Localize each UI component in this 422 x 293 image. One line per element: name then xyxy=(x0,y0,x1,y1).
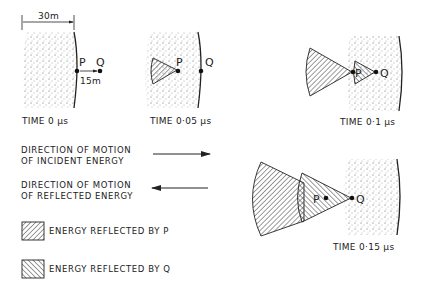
reflected-wedge-p xyxy=(306,48,352,96)
label-p: P xyxy=(313,193,320,206)
label-p: P xyxy=(355,67,362,80)
swatch-p-icon xyxy=(22,222,44,240)
panel-time-005: P Q TIME 0·05 μs xyxy=(146,32,214,126)
legend-incident-line1: DIRECTION OF MOTION xyxy=(21,145,131,156)
reflected-wedge-p xyxy=(253,162,305,236)
time-label: TIME 0 μs xyxy=(21,116,68,126)
label-q: Q xyxy=(205,56,214,69)
time-label: TIME 0·05 μs xyxy=(149,116,211,126)
legend-energy-q: ENERGY REFLECTED BY Q xyxy=(49,264,171,275)
panel-time-015: P Q TIME 0·15 μs xyxy=(253,159,401,252)
label-q: Q xyxy=(356,193,365,206)
legend-reflected-line2: OF REFLECTED ENERGY xyxy=(21,191,133,202)
spacing-label: 15m xyxy=(80,76,101,86)
legend-reflected: DIRECTION OF MOTION OF REFLECTED ENERGY xyxy=(21,180,133,202)
legend-reflected-line1: DIRECTION OF MOTION xyxy=(21,180,133,191)
label-q: Q xyxy=(96,56,105,69)
point-p xyxy=(75,69,80,74)
legend-incident-line2: OF INCIDENT ENERGY xyxy=(21,156,131,167)
panel-time-0: 30m P Q 15m TIME 0 μs xyxy=(21,11,105,126)
legend-incident: DIRECTION OF MOTION OF INCIDENT ENERGY xyxy=(21,145,131,167)
dimension-label: 30m xyxy=(38,11,59,21)
layer-body xyxy=(23,32,77,108)
label-p: P xyxy=(176,56,183,69)
panel-time-01: P Q TIME 0·1 μs xyxy=(306,36,402,127)
point-q xyxy=(98,69,103,74)
legend-energy-p: ENERGY REFLECTED BY P xyxy=(49,226,169,237)
time-label: TIME 0·15 μs xyxy=(332,242,394,252)
swatch-q-icon xyxy=(22,260,44,278)
label-p: P xyxy=(79,56,86,69)
label-q: Q xyxy=(380,67,389,80)
time-label: TIME 0·1 μs xyxy=(339,117,395,127)
